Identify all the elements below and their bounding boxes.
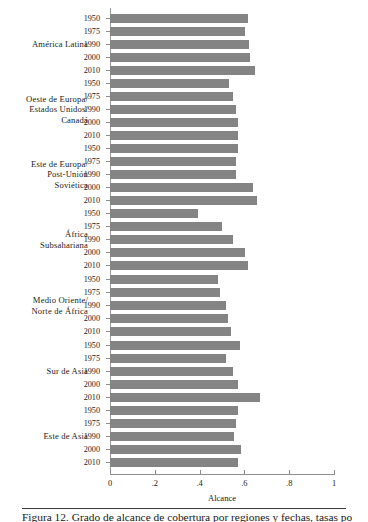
bar-row: 2010 [0, 391, 368, 404]
year-tick-label: 2000 [74, 443, 100, 456]
year-tick-label: 1990 [74, 103, 100, 116]
year-tick-label: 2000 [74, 116, 100, 129]
bar [110, 445, 241, 454]
year-tick-label: 1990 [74, 365, 100, 378]
bar-row: 2000 [0, 51, 368, 64]
x-axis-title: Alcance [110, 493, 334, 503]
year-tick-label: 2010 [74, 325, 100, 338]
bar-row: 2000 [0, 246, 368, 259]
bar [110, 341, 240, 350]
bar-row: 1990 [0, 365, 368, 378]
bar [110, 261, 248, 270]
bar-row: 1975 [0, 220, 368, 233]
bar-row: 1950 [0, 142, 368, 155]
bar-row: 2010 [0, 64, 368, 77]
year-tick-label: 2000 [74, 378, 100, 391]
bar-row: 1990 [0, 233, 368, 246]
bar [110, 27, 245, 36]
x-axis-tick-mark [200, 470, 201, 475]
figure-container: América Latina19501975199020002010Oeste … [0, 0, 368, 522]
bar [110, 118, 238, 127]
caption-divider [22, 508, 346, 509]
bar [110, 301, 226, 310]
bar [110, 183, 253, 192]
bar-row: 1975 [0, 286, 368, 299]
x-axis-tick-label: 0 [95, 479, 125, 488]
year-tick-label: 1990 [74, 430, 100, 443]
figure-caption: Figura 12. Grado de alcance de cobertura… [22, 511, 352, 522]
bar-row: 1975 [0, 417, 368, 430]
x-axis-tick-label: .2 [140, 479, 170, 488]
year-tick-label: 1950 [74, 12, 100, 25]
x-axis-tick-mark [155, 470, 156, 475]
year-tick-label: 1990 [74, 299, 100, 312]
bar [110, 131, 238, 140]
x-axis-tick-label: .8 [274, 479, 304, 488]
bar-row: 2010 [0, 456, 368, 469]
year-tick-label: 1950 [74, 339, 100, 352]
chart-plot-area: América Latina19501975199020002010Oeste … [0, 0, 368, 470]
bar-row: 2010 [0, 129, 368, 142]
year-tick-label: 2010 [74, 259, 100, 272]
year-tick-label: 1975 [74, 155, 100, 168]
year-tick-label: 1975 [74, 90, 100, 103]
year-tick-label: 1950 [74, 142, 100, 155]
bar [110, 79, 229, 88]
bar-row: 1990 [0, 103, 368, 116]
x-axis-tick-mark [289, 470, 290, 475]
year-tick-label: 1950 [74, 77, 100, 90]
bar [110, 222, 222, 231]
year-tick-label: 1990 [74, 233, 100, 246]
bar-group: Este de Asia19501975199020002010 [0, 404, 368, 469]
bar-row: 1950 [0, 12, 368, 25]
bar-row: 2000 [0, 312, 368, 325]
year-tick-label: 1950 [74, 273, 100, 286]
bar-row: 2000 [0, 443, 368, 456]
bar [110, 196, 257, 205]
bar-row: 1990 [0, 38, 368, 51]
year-tick-label: 1975 [74, 25, 100, 38]
bar-row: 2010 [0, 259, 368, 272]
year-tick-label: 2000 [74, 312, 100, 325]
bar-group: Sur de Asia19501975199020002010 [0, 339, 368, 404]
year-tick-label: 1975 [74, 220, 100, 233]
bar [110, 144, 238, 153]
year-tick-label: 2000 [74, 181, 100, 194]
bar-row: 1975 [0, 352, 368, 365]
bar-row: 1975 [0, 25, 368, 38]
x-axis-line [110, 474, 334, 475]
bar-row: 1950 [0, 77, 368, 90]
bar-row: 1950 [0, 339, 368, 352]
bar [110, 367, 233, 376]
year-tick-label: 2010 [74, 129, 100, 142]
bar-row: 1990 [0, 299, 368, 312]
bar [110, 14, 248, 23]
bar [110, 209, 198, 218]
bar [110, 53, 250, 62]
x-axis-tick-mark [334, 470, 335, 475]
bar-row: 1950 [0, 207, 368, 220]
x-axis-tick-label: 1 [319, 479, 349, 488]
bar [110, 170, 236, 179]
bar-row: 1950 [0, 404, 368, 417]
bar [110, 406, 238, 415]
year-tick-label: 2010 [74, 391, 100, 404]
bar [110, 354, 226, 363]
x-axis-tick-label: .6 [229, 479, 259, 488]
year-tick-label: 1975 [74, 352, 100, 365]
bar-row: 1990 [0, 168, 368, 181]
bar [110, 458, 238, 467]
x-axis-tick-mark [244, 470, 245, 475]
bar [110, 92, 233, 101]
bar-row: 2000 [0, 378, 368, 391]
bar [110, 66, 255, 75]
bar-row: 2000 [0, 181, 368, 194]
year-tick-label: 2000 [74, 246, 100, 259]
bar-row: 1975 [0, 90, 368, 103]
bar-row: 1990 [0, 430, 368, 443]
bar-row: 2010 [0, 194, 368, 207]
bar [110, 327, 231, 336]
bar [110, 314, 228, 323]
bar [110, 248, 245, 257]
bar-group: Oeste de Europa/Estados Unidos/Canadá195… [0, 77, 368, 142]
